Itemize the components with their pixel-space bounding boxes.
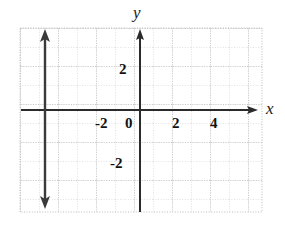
x-tick-label-negative-2: -2 [95,116,108,131]
x-axis-label: x [266,100,274,117]
y-tick-label-negative-2: -2 [110,156,123,171]
graph-canvas [0,0,285,230]
x-tick-label-2: 2 [172,116,180,131]
y-axis-label: y [133,4,141,21]
y-tick-label-2: 2 [119,62,127,77]
x-tick-label-4: 4 [210,116,218,131]
coordinate-plane-figure: y x -2 0 2 4 2 -2 [0,0,285,230]
x-tick-label-0: 0 [125,116,133,131]
